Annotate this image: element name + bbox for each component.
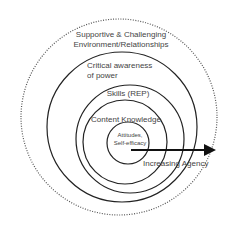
ring-skills <box>76 85 184 193</box>
ring2-label-line1: Critical awareness <box>87 61 152 70</box>
ring3-label: Skills (REP) <box>107 89 150 98</box>
ring4-label: Content Knowledge <box>91 115 161 124</box>
agency-diagram: Supportive & Challenging Environment/Rel… <box>0 0 238 225</box>
ring-critical-awareness <box>47 52 197 202</box>
core-label-line2: Self-efficacy <box>114 140 147 146</box>
ring2-label-line2: of power <box>87 71 118 80</box>
arrow-label: Increasing Agency <box>143 159 208 168</box>
outer-label-line2: Environment/Relationships <box>73 40 168 49</box>
core-label-line1: Attitudes, <box>117 132 142 138</box>
outer-label-line1: Supportive & Challenging <box>76 30 166 39</box>
